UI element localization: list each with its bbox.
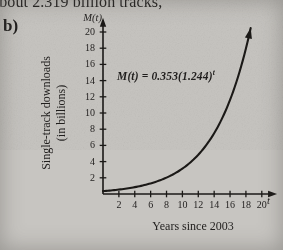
curve-arrowhead <box>245 28 252 39</box>
y-tick-label: 10 <box>73 108 95 118</box>
axes-layer <box>100 18 277 197</box>
y-tick-label: 20 <box>73 27 95 37</box>
y-tick-label: 8 <box>73 124 95 134</box>
exponential-growth-plot <box>0 0 283 250</box>
y-tick-label: 14 <box>73 76 95 86</box>
y-axis-arrowhead <box>100 18 106 27</box>
y-tick-label: 18 <box>73 43 95 53</box>
y-tick-label: 12 <box>73 92 95 102</box>
y-tick-label: 2 <box>73 173 95 183</box>
x-axis-arrowhead <box>268 191 277 197</box>
textbook-figure-panel: about 2.319 billion tracks, b) Single-tr… <box>0 0 283 250</box>
y-tick-label: 4 <box>73 157 95 167</box>
curve-layer <box>103 28 252 191</box>
y-tick-label: 16 <box>73 59 95 69</box>
exponential-curve <box>103 28 251 191</box>
y-tick-label: 6 <box>73 140 95 150</box>
x-tick-label: 20 <box>251 200 273 210</box>
tick-marks-layer <box>100 32 262 197</box>
